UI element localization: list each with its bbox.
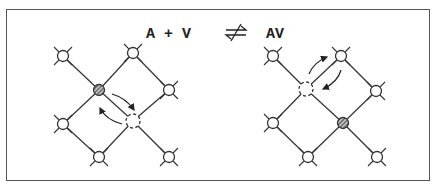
vacancy-icon xyxy=(299,82,313,96)
lattice-bond xyxy=(306,89,343,123)
lattice-complex xyxy=(264,47,386,166)
atom-site-icon xyxy=(58,119,69,130)
atom-site-icon xyxy=(371,86,382,97)
atom-site-icon xyxy=(372,152,383,163)
solute-atom-icon xyxy=(94,85,105,96)
atom-site-icon xyxy=(336,51,347,62)
equation-right: AV xyxy=(266,26,284,43)
atom-site-icon xyxy=(268,118,279,129)
atom-site-icon xyxy=(268,51,279,62)
jump-arrow-icon xyxy=(112,94,134,110)
atom-site-icon xyxy=(128,48,139,59)
atom-site-icon xyxy=(303,152,314,163)
atom-site-icon xyxy=(94,152,105,163)
lattice-diagram: A + V AV xyxy=(0,0,437,190)
equilibrium-arrow-icon xyxy=(226,24,246,41)
equation-left: A + V xyxy=(146,26,191,43)
atom-site-icon xyxy=(58,51,69,62)
solute-atom-icon xyxy=(338,118,349,129)
jump-arrow-icon xyxy=(323,70,341,89)
atom-site-icon xyxy=(164,152,175,163)
atom-site-icon xyxy=(164,85,175,96)
lattice-separated xyxy=(54,44,178,166)
vacancy-icon xyxy=(126,114,140,128)
jump-arrow-icon xyxy=(100,108,122,124)
reaction-equation: A + V AV xyxy=(146,24,284,43)
